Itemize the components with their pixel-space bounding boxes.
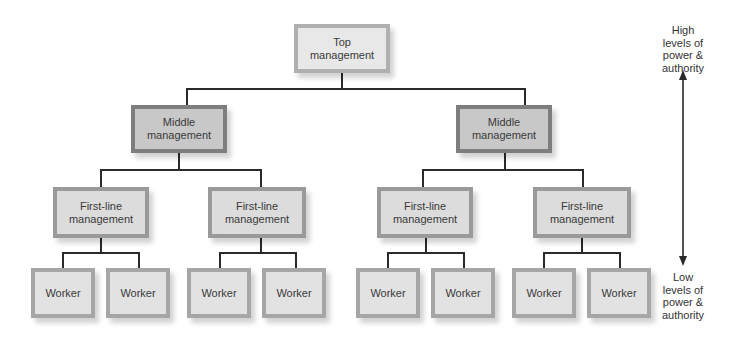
connector-middle-right-down xyxy=(504,152,506,170)
connector-worker-6 xyxy=(463,252,465,268)
connector-worker-5 xyxy=(387,252,389,268)
node-label: Worker xyxy=(120,287,155,300)
node-label: Middle management xyxy=(144,116,214,142)
node-first-line-2: First-line management xyxy=(208,187,306,238)
node-worker-7: Worker xyxy=(512,268,576,318)
node-label: First-line management xyxy=(66,200,136,226)
high-label-line: High xyxy=(648,24,718,37)
connector-first-4-horizontal xyxy=(543,252,621,254)
node-worker-3: Worker xyxy=(187,268,251,318)
connector-worker-7 xyxy=(543,252,545,268)
connector-worker-4 xyxy=(295,252,297,268)
connector-middle-left-down xyxy=(178,152,180,170)
node-label: Worker xyxy=(601,287,636,300)
node-label: Middle management xyxy=(469,116,539,142)
high-authority-label: High levels of power & authority xyxy=(648,24,718,74)
node-label: Worker xyxy=(201,287,236,300)
connector-to-first-4 xyxy=(582,169,584,187)
node-middle-management-left: Middle management xyxy=(131,105,227,153)
connector-worker-1 xyxy=(62,252,64,268)
node-label: Worker xyxy=(370,287,405,300)
node-label: First-line management xyxy=(390,200,460,226)
connector-first-3-horizontal xyxy=(387,252,465,254)
node-worker-6: Worker xyxy=(431,268,495,318)
node-worker-8: Worker xyxy=(587,268,651,318)
double-arrow-icon xyxy=(676,70,690,266)
node-middle-management-right: Middle management xyxy=(456,105,552,153)
node-worker-1: Worker xyxy=(31,268,95,318)
connector-worker-8 xyxy=(619,252,621,268)
node-label: Worker xyxy=(526,287,561,300)
connector-middle-left-horizontal xyxy=(100,169,262,171)
low-label-line: authority xyxy=(648,309,718,322)
connector-first-4-down xyxy=(581,237,583,253)
node-first-line-4: First-line management xyxy=(533,187,631,238)
low-label-line: levels of xyxy=(648,284,718,297)
node-first-line-3: First-line management xyxy=(377,187,473,238)
node-worker-5: Worker xyxy=(356,268,420,318)
node-label: First-line management xyxy=(222,200,292,226)
node-worker-4: Worker xyxy=(262,268,326,318)
connector-middle-right-horizontal xyxy=(422,169,584,171)
connector-to-middle-left xyxy=(186,88,188,106)
connector-worker-2 xyxy=(138,252,140,268)
low-label-line: power & xyxy=(648,296,718,309)
connector-first-2-down xyxy=(260,237,262,253)
node-label: First-line management xyxy=(547,200,617,226)
connector-first-1-horizontal xyxy=(62,252,140,254)
low-authority-label: Low levels of power & authority xyxy=(648,271,718,321)
node-top-management: Top management xyxy=(294,24,390,73)
connector-to-first-1 xyxy=(100,169,102,187)
high-label-line: levels of xyxy=(648,37,718,50)
connector-to-first-2 xyxy=(260,169,262,187)
high-label-line: power & xyxy=(648,49,718,62)
connector-to-first-3 xyxy=(422,169,424,187)
node-label: Worker xyxy=(445,287,480,300)
node-label: Top management xyxy=(307,36,377,62)
connector-first-1-down xyxy=(100,237,102,253)
connector-top-down xyxy=(341,73,343,89)
connector-top-horizontal xyxy=(186,88,526,90)
low-label-line: Low xyxy=(648,271,718,284)
connector-first-3-down xyxy=(425,237,427,253)
node-first-line-1: First-line management xyxy=(53,187,149,238)
connector-worker-3 xyxy=(219,252,221,268)
node-worker-2: Worker xyxy=(106,268,170,318)
connector-to-middle-right xyxy=(524,88,526,106)
node-label: Worker xyxy=(45,287,80,300)
connector-first-2-horizontal xyxy=(219,252,297,254)
node-label: Worker xyxy=(276,287,311,300)
